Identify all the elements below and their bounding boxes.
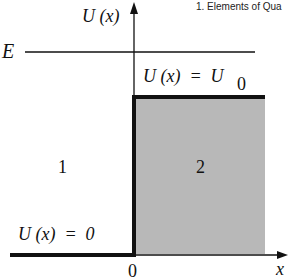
potential-step-diagram: 1. Elements of Qua E U (x) x 0 1 2 U (x)…	[0, 0, 288, 280]
region-2-label: 2	[196, 157, 205, 177]
region-2-potential-label: U (x) = U	[143, 66, 225, 87]
diagram-canvas: 1. Elements of Qua E U (x) x 0 1 2 U (x)…	[0, 0, 288, 280]
energy-label: E	[1, 40, 14, 62]
x-axis-label: x	[275, 259, 284, 279]
page-header: 1. Elements of Qua	[196, 1, 282, 12]
region-1-label: 1	[58, 157, 67, 177]
origin-label: 0	[128, 261, 137, 280]
region-1-potential-label: U (x) = 0	[18, 224, 95, 245]
region-2-potential-subscript: 0	[237, 74, 246, 94]
y-axis-arrow-icon	[130, 2, 138, 14]
y-axis-label: U (x)	[82, 6, 119, 27]
x-axis-arrow-icon	[277, 251, 288, 259]
